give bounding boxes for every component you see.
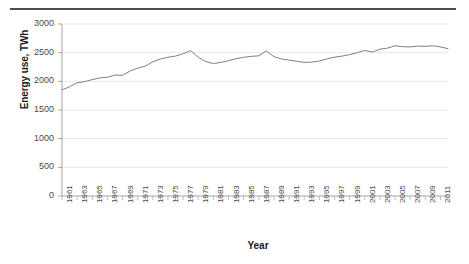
x-tick-label: 1991 bbox=[292, 185, 301, 203]
chart-container: 050010001500200025003000 196119631965196… bbox=[0, 0, 469, 264]
x-tick-label: 1961 bbox=[65, 185, 74, 203]
gridlines-group bbox=[58, 24, 448, 196]
x-tick-label: 1989 bbox=[277, 185, 286, 203]
x-tick-label: 1983 bbox=[232, 185, 241, 203]
x-tick-label: 2009 bbox=[428, 185, 437, 203]
x-tick-label: 2007 bbox=[413, 185, 422, 203]
x-tick-label: 1987 bbox=[262, 185, 271, 203]
x-tick-label: 1979 bbox=[201, 185, 210, 203]
x-tick-label: 2003 bbox=[383, 185, 392, 203]
x-tick-label: 1963 bbox=[80, 185, 89, 203]
line-chart-plot bbox=[0, 0, 469, 264]
x-tick-label: 1981 bbox=[216, 185, 225, 203]
x-tick-label: 2011 bbox=[443, 186, 452, 203]
y-tick-label: 500 bbox=[14, 161, 54, 171]
x-tick-label: 1973 bbox=[156, 185, 165, 203]
x-tick-label: 1999 bbox=[353, 185, 362, 203]
x-tick-label: 1967 bbox=[110, 185, 119, 203]
x-tick-label: 2001 bbox=[368, 185, 377, 203]
x-tick-label: 1985 bbox=[247, 185, 256, 203]
x-tick-label: 1977 bbox=[186, 185, 195, 203]
x-axis-title: Year bbox=[198, 240, 318, 251]
x-tick-label: 1995 bbox=[322, 185, 331, 203]
y-tick-label: 0 bbox=[14, 190, 54, 200]
x-tick-label: 2005 bbox=[398, 185, 407, 203]
x-tick-label: 1969 bbox=[126, 185, 135, 203]
x-tick-label: 1993 bbox=[307, 185, 316, 203]
y-axis-title: Energy use, TWh bbox=[19, 0, 30, 140]
x-tick-label: 1971 bbox=[141, 185, 150, 203]
x-tick-label: 1997 bbox=[337, 185, 346, 203]
x-tick-label: 1975 bbox=[171, 185, 180, 203]
x-tick-label: 1965 bbox=[95, 185, 104, 203]
